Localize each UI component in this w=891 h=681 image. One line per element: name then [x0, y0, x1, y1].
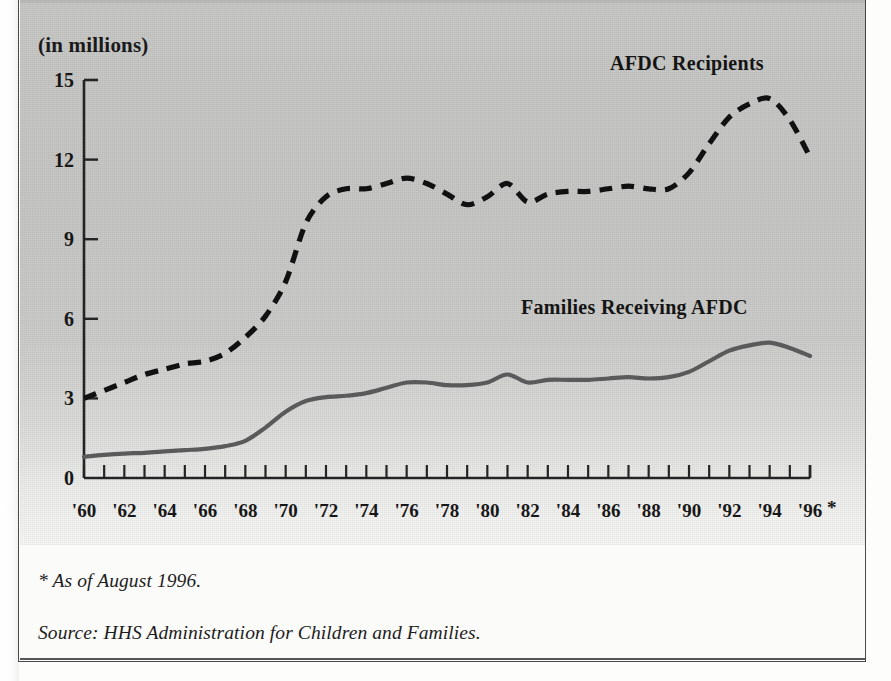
- chart-axes: [84, 80, 810, 478]
- x-axis-tick-90: '90: [677, 500, 701, 522]
- y-axis-tick-9: 9: [40, 228, 74, 251]
- chart-plot-area: [0, 0, 891, 545]
- x-axis-tick-68: '68: [233, 500, 257, 522]
- x-axis-tick-60: '60: [72, 500, 96, 522]
- y-axis-tick-6: 6: [40, 307, 74, 330]
- y-axis-tick-3: 3: [40, 387, 74, 410]
- y-axis-tick-15: 15: [40, 69, 74, 92]
- series-label-families-receiving-afdc: Families Receiving AFDC: [521, 296, 748, 319]
- x-axis-tick-74: '74: [354, 500, 378, 522]
- x-axis-tick-84: '84: [556, 500, 580, 522]
- series-label-afdc-recipients: AFDC Recipients: [610, 52, 764, 75]
- x-axis-tick-78: '78: [435, 500, 459, 522]
- x-axis-tick-94: '94: [758, 500, 782, 522]
- x-axis-footnote-star: *: [827, 497, 837, 519]
- chart-figure: (in millions) AFDC Recipients Families R…: [0, 0, 891, 681]
- x-axis-tick-62: '62: [112, 500, 136, 522]
- x-axis-tick-66: '66: [193, 500, 217, 522]
- footnote-source: Source: HHS Administration for Children …: [38, 622, 481, 644]
- y-axis-tick-0: 0: [40, 467, 74, 490]
- x-axis-tick-76: '76: [395, 500, 419, 522]
- x-axis-tick-88: '88: [637, 500, 661, 522]
- x-axis-tick-64: '64: [153, 500, 177, 522]
- x-axis-tick-96: '96: [798, 500, 822, 522]
- x-axis-tick-82: '82: [516, 500, 540, 522]
- figure-bottom-rule: [20, 658, 865, 660]
- y-axis-units-label: (in millions): [38, 33, 149, 58]
- footnote-as-of-date: * As of August 1996.: [38, 570, 201, 592]
- x-axis-tick-70: '70: [274, 500, 298, 522]
- series-line-families-receiving-afdc: [84, 343, 810, 457]
- x-axis-tick-80: '80: [475, 500, 499, 522]
- x-axis-tick-92: '92: [717, 500, 741, 522]
- y-axis-tick-12: 12: [40, 148, 74, 171]
- series-line-afdc-recipients: [84, 98, 810, 398]
- x-axis-tick-72: '72: [314, 500, 338, 522]
- x-axis-tick-86: '86: [596, 500, 620, 522]
